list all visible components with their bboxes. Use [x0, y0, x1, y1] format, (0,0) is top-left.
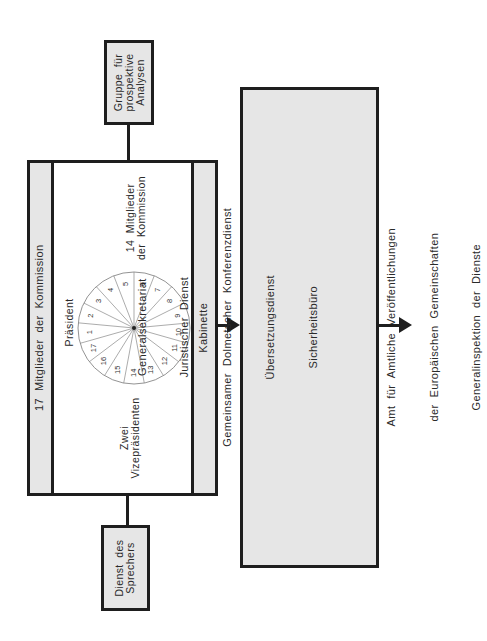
service-item: Sicherheitsbüro [307, 208, 321, 447]
wheel-segment-number: 1 [85, 330, 94, 334]
wheel-segment-number: 3 [94, 299, 103, 303]
spokesman-service-box: Dienst des Sprechers [101, 525, 150, 611]
service-item: Juristischer Dienst [178, 208, 192, 447]
services-box: Generalsekretariat Juristischer Dienst G… [240, 87, 379, 568]
prospective-analysis-group-label: Gruppe für prospektive Analysen [112, 53, 145, 111]
service-spacer [349, 208, 355, 447]
wheel-segment-number: 17 [89, 344, 98, 352]
commission-members-label: 17 Mitglieder der Kommission [35, 245, 47, 411]
arrowhead-icon [399, 317, 412, 333]
service-item: Generalsekretariat [135, 208, 149, 447]
commission-members-band: 17 Mitglieder der Kommission [30, 163, 54, 493]
services-list: Generalsekretariat Juristischer Dienst G… [106, 208, 487, 447]
connector-top [127, 124, 130, 161]
spokesman-service-label: Dienst des Sprechers [114, 540, 136, 597]
service-item: Gemeinsamer Dolmetscher Konferenzdienst [221, 208, 235, 447]
prospective-analysis-group-box: Gruppe für prospektive Analysen [104, 40, 154, 125]
connector-bottom [126, 495, 129, 526]
service-item: Amt für Amtliche Veröffentlichungen [384, 208, 398, 447]
service-item: Übersetzungsdienst [264, 208, 278, 447]
wheel-segment-number: 2 [86, 314, 95, 318]
arrow-services-outward [378, 324, 400, 327]
service-item: der Europäischen Gemeinschaften [427, 208, 441, 447]
service-item: Generalinspektion der Dienste [470, 208, 484, 447]
